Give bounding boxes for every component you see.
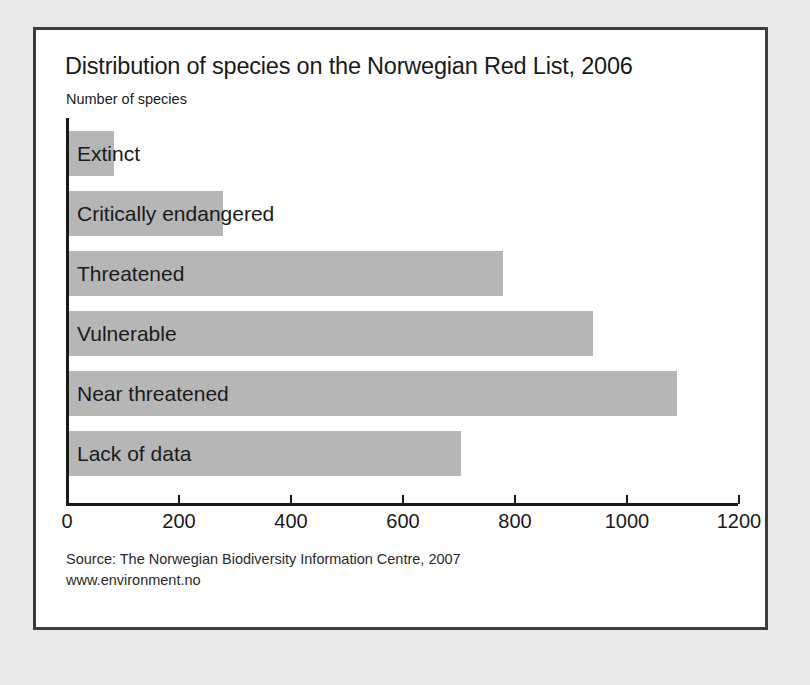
source-url: www.environment.no [66, 570, 461, 591]
x-axis-tick [178, 495, 180, 504]
chart-panel: Distribution of species on the Norwegian… [33, 27, 768, 630]
bar-category-label: Critically endangered [77, 191, 274, 236]
bar-category-label: Extinct [77, 131, 140, 176]
x-axis-tick-label: 200 [162, 510, 195, 533]
x-axis-tick [290, 495, 292, 504]
source-text: Source: The Norwegian Biodiversity Infor… [66, 549, 461, 570]
x-axis-tick-label: 1000 [605, 510, 650, 533]
x-axis-tick [66, 495, 68, 504]
x-axis-tick [514, 495, 516, 504]
x-axis-tick-label: 1200 [717, 510, 762, 533]
bar-category-label: Near threatened [77, 371, 229, 416]
bar-category-label: Lack of data [77, 431, 191, 476]
x-axis-tick-label: 0 [61, 510, 72, 533]
plot-area: ExtinctCritically endangeredThreatenedVu… [66, 118, 738, 508]
x-axis-tick [402, 495, 404, 504]
chart-title: Distribution of species on the Norwegian… [65, 53, 633, 80]
bar-category-label: Threatened [77, 251, 184, 296]
x-axis-tick-label: 400 [274, 510, 307, 533]
x-axis-tick-label: 600 [386, 510, 419, 533]
chart-subtitle-axis-label: Number of species [66, 91, 187, 107]
x-axis-tick-label: 800 [498, 510, 531, 533]
x-axis-tick [738, 495, 740, 504]
x-axis-tick [626, 495, 628, 504]
bar-category-label: Vulnerable [77, 311, 177, 356]
source-note: Source: The Norwegian Biodiversity Infor… [66, 549, 461, 591]
